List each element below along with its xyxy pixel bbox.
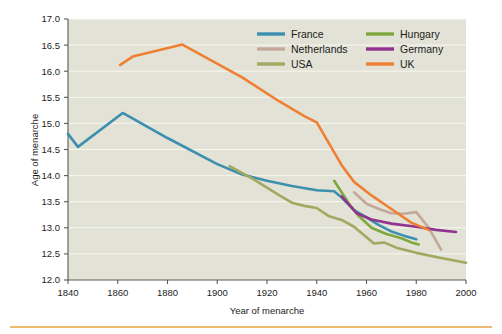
legend-label-france: France <box>291 28 324 40</box>
x-tick-label: 1940 <box>306 287 327 298</box>
menarche-line-chart: 12.012.513.013.514.014.515.015.516.016.5… <box>0 0 502 334</box>
legend-label-hungary: Hungary <box>400 28 440 40</box>
legend-label-germany: Germany <box>400 43 444 55</box>
y-tick-label: 16.0 <box>42 66 61 77</box>
chart-figure: 12.012.513.013.514.014.515.015.516.016.5… <box>0 0 502 334</box>
legend-label-netherlands: Netherlands <box>291 43 348 55</box>
y-axis-title: Age of menarche <box>29 114 40 186</box>
x-tick-label: 2000 <box>455 287 476 298</box>
y-tick-label: 13.5 <box>42 196 61 207</box>
x-tick-label: 1980 <box>406 287 427 298</box>
x-tick-label: 1960 <box>356 287 377 298</box>
y-tick-label: 14.0 <box>42 170 61 181</box>
y-tick-label: 12.5 <box>42 248 61 259</box>
y-tick-label: 15.5 <box>42 92 61 103</box>
x-tick-label: 1920 <box>256 287 277 298</box>
x-tick-label: 1880 <box>157 287 178 298</box>
legend-label-usa: USA <box>291 58 313 70</box>
x-tick-label: 1840 <box>57 287 78 298</box>
y-tick-label: 16.5 <box>42 40 61 51</box>
y-tick-label: 14.5 <box>42 144 61 155</box>
x-axis-title: Year of menarche <box>230 305 305 316</box>
y-tick-label: 13.0 <box>42 222 61 233</box>
legend-label-uk: UK <box>400 58 415 70</box>
x-tick-label: 1900 <box>207 287 228 298</box>
y-tick-label: 12.0 <box>42 274 61 285</box>
x-tick-label: 1860 <box>107 287 128 298</box>
y-tick-label: 15.0 <box>42 118 61 129</box>
y-tick-label: 17.0 <box>42 13 61 24</box>
